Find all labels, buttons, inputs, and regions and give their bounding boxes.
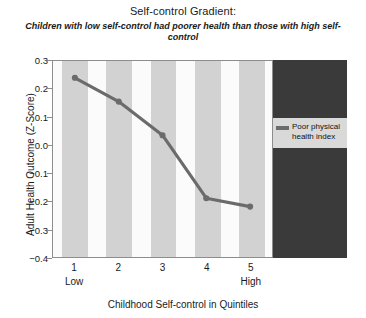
x-axis-endpoint-label: High — [226, 276, 276, 287]
y-axis-tick-label: −0.4 — [8, 253, 48, 264]
y-axis-tick-label: −0.1 — [8, 168, 48, 179]
series-line-chart — [53, 61, 272, 257]
x-axis-tick-label: 1 — [54, 262, 94, 273]
series-data-point — [116, 99, 122, 105]
legend-label-line-1: Poor physical — [292, 122, 340, 132]
y-axis-tick-mark — [47, 258, 52, 259]
y-axis-tick-label: −0.2 — [8, 196, 48, 207]
series-markers — [72, 75, 253, 210]
legend-label-line-2: health index — [292, 132, 340, 142]
series-data-point — [72, 75, 78, 81]
plot-area — [52, 60, 273, 258]
y-axis-tick-label: 0.2 — [8, 83, 48, 94]
legend-entry: Poor physical health index — [273, 118, 347, 148]
y-axis-tick-label: 0.0 — [8, 139, 48, 150]
series-data-point — [247, 204, 253, 210]
x-axis-tick-label: 2 — [98, 262, 138, 273]
chart-subtitle: Children with low self-control had poore… — [18, 21, 348, 43]
y-axis-tick-label: 0.1 — [8, 111, 48, 122]
x-axis-tick-label: 4 — [187, 262, 227, 273]
x-axis-tick-label: 3 — [143, 262, 183, 273]
y-axis-tick-label: 0.3 — [8, 55, 48, 66]
chart-title: Self-control Gradient: — [0, 5, 366, 17]
series-line-poor-physical-health-index — [75, 78, 250, 207]
legend-panel: Poor physical health index — [273, 60, 347, 258]
y-axis-tick-label: −0.3 — [8, 224, 48, 235]
series-data-point — [203, 195, 209, 201]
chart-figure: Self-control Gradient: Children with low… — [0, 0, 366, 318]
x-axis-tick-label: 5 — [231, 262, 271, 273]
x-axis-title: Childhood Self-control in Quintiles — [0, 299, 366, 310]
x-axis-endpoint-label: Low — [49, 276, 99, 287]
legend-color-swatch — [276, 126, 289, 130]
legend-entry-label: Poor physical health index — [292, 122, 342, 142]
series-data-point — [159, 132, 165, 138]
